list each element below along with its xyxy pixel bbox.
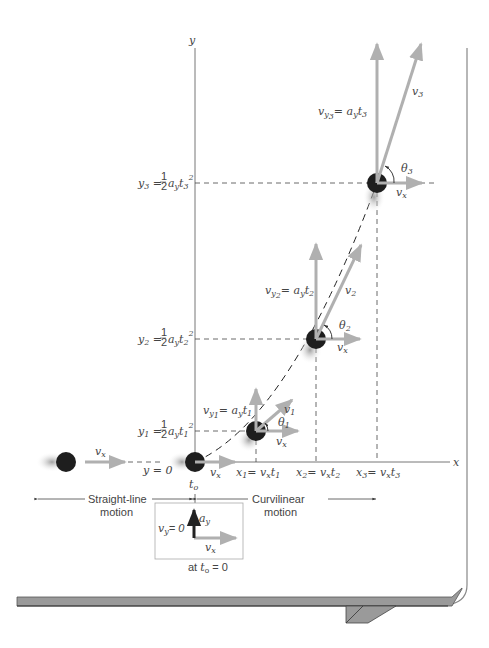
svg-text:y2 =: y2 = (137, 333, 162, 347)
svg-text:ayt32: ayt32 (168, 173, 194, 191)
svg-text:2: 2 (161, 428, 167, 440)
frame-border (452, 48, 467, 604)
theta3-label: θ3 (401, 162, 413, 176)
svg-text:2: 2 (161, 336, 167, 348)
curvilinear-motion-label: motion (264, 506, 297, 518)
velocity-vectors (85, 44, 422, 462)
vx2-label: vx (337, 341, 348, 355)
x3-label: x3= vxt3 (356, 466, 400, 480)
svg-text:2: 2 (161, 180, 167, 192)
x-axis-label: x (453, 456, 460, 469)
inset-vy-label: vy= 0 (158, 522, 185, 536)
v2-label: v2 (345, 284, 356, 298)
vy2-label: vy2= ayt2 (265, 284, 314, 300)
ledge-bracket (346, 606, 396, 623)
vx0-label: vx (210, 466, 221, 480)
t0-label: to (189, 478, 198, 492)
dashed-guides (110, 183, 438, 462)
theta1-label: θ1 (278, 416, 290, 430)
x2-label: x2= vxt2 (296, 466, 340, 480)
vx1-label: vx (276, 435, 287, 449)
y1-label: y1 = 1 2 ayt12 (137, 418, 194, 440)
svg-text:y1 =: y1 = (137, 425, 162, 439)
y2-label: y2 = 1 2 ayt22 (137, 326, 194, 348)
y-axis-label: y (188, 34, 196, 47)
vx-incoming-label: vx (95, 445, 106, 459)
straight-line-label: Straight-line (88, 493, 147, 505)
y0-label: y = 0 (142, 464, 172, 477)
vy3-label: vy3= ayt3 (318, 105, 367, 121)
ledge (17, 588, 462, 606)
v1-label: v1 (284, 403, 295, 417)
x1-label: x1= vxt1 (236, 466, 280, 480)
v3-label: v3 (412, 85, 423, 99)
theta2-label: θ2 (339, 319, 351, 333)
vx3-label: vx (396, 186, 407, 200)
svg-text:ayt12: ayt12 (168, 421, 194, 439)
ball-incoming (56, 452, 76, 472)
svg-text:y3 =: y3 = (137, 177, 162, 191)
straight-motion-label: motion (100, 506, 133, 518)
curvilinear-label: Curvilinear (252, 493, 305, 505)
vy1-label: vy1= ayt1 (203, 404, 252, 420)
svg-text:ayt22: ayt22 (168, 329, 194, 347)
y3-label: y3 = 1 2 ayt32 (137, 170, 194, 192)
inset-caption: at to = 0 (188, 561, 228, 575)
projectile-motion-diagram: y x y3 = 1 (0, 0, 489, 648)
